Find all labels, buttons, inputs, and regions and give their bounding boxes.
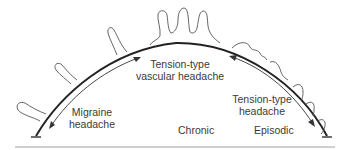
label-migraine: Migraine headache	[62, 106, 122, 130]
label-migraine-line2: headache	[62, 118, 122, 130]
label-tension: Tension-type headache	[222, 93, 302, 117]
label-migraine-line1: Migraine	[62, 106, 122, 118]
arrowhead-right-down-icon	[308, 119, 315, 127]
bump-1	[17, 102, 46, 121]
bump-4	[150, 8, 220, 45]
label-tension-vascular-line1: Tension-type	[135, 58, 225, 70]
arrowhead-right-up-icon	[229, 55, 237, 61]
label-episodic: Episodic	[254, 124, 294, 136]
label-tension-line1: Tension-type	[222, 93, 302, 105]
label-tension-vascular: Tension-type vascular headache	[135, 58, 225, 82]
bump-3	[108, 28, 127, 55]
bump-6	[270, 62, 288, 80]
bump-2	[55, 63, 77, 84]
label-chronic: Chronic	[178, 124, 214, 136]
bump-5	[232, 43, 267, 60]
label-tension-line2: headache	[222, 105, 302, 117]
label-tension-vascular-line2: vascular headache	[135, 70, 225, 82]
